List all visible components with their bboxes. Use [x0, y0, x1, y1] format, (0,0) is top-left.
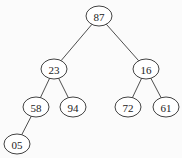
tree-node-61: 61 [153, 97, 179, 117]
edge-23-58 [40, 78, 49, 97]
node-label: 87 [94, 11, 106, 23]
tree-node-94: 94 [60, 97, 86, 117]
edge-16-72 [132, 78, 141, 97]
edge-87-23 [61, 24, 92, 60]
edge-58-05 [22, 116, 31, 134]
tree-node-87: 87 [86, 6, 112, 26]
tree-node-72: 72 [115, 97, 141, 117]
tree-node-05: 05 [4, 134, 30, 154]
edge-23-94 [59, 78, 69, 97]
tree-nodes: 8723165894726105 [4, 6, 179, 154]
edge-87-16 [106, 24, 138, 60]
node-label: 94 [68, 102, 80, 114]
tree-edges [22, 24, 161, 134]
node-label: 72 [123, 102, 134, 114]
node-label: 05 [12, 139, 24, 151]
node-label: 23 [49, 64, 61, 76]
tree-node-16: 16 [133, 59, 159, 79]
node-label: 58 [31, 102, 43, 114]
edge-16-61 [151, 78, 161, 97]
node-label: 61 [161, 102, 172, 114]
node-label: 16 [141, 64, 153, 76]
tree-node-23: 23 [41, 59, 67, 79]
binary-tree-diagram: 8723165894726105 [0, 0, 182, 158]
tree-node-58: 58 [23, 97, 49, 117]
